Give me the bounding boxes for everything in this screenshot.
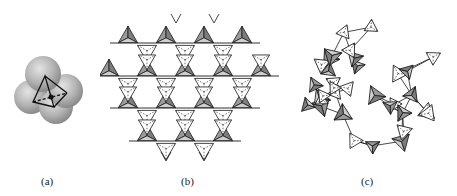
tetrahedron-sphere-model [0, 0, 110, 196]
panel-a [0, 0, 110, 196]
ordered-tetrahedra-network [100, 0, 280, 196]
caption-a: (a) [41, 175, 53, 187]
silicon-atom [49, 95, 54, 100]
caption-b: (b) [181, 175, 194, 187]
panel-b [100, 0, 280, 196]
panel-c [280, 0, 457, 196]
disordered-tetrahedra-network [280, 0, 457, 196]
caption-c: (c) [361, 175, 373, 187]
